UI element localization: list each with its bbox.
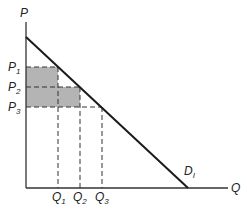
quantity-label-q3: Q3 (95, 190, 109, 206)
demand-curve (26, 37, 188, 188)
x-axis-label: Q (231, 181, 240, 195)
shaded-area-p1-p2 (26, 67, 58, 87)
demand-curve-label: DI (184, 164, 196, 180)
quantity-label-q2: Q2 (73, 190, 87, 206)
y-axis-label: P (20, 6, 28, 20)
quantity-label-q1: Q1 (52, 190, 66, 206)
price-label-p1: P1 (8, 60, 20, 76)
shaded-area-p2-p3 (26, 87, 80, 107)
price-label-p2: P2 (8, 80, 21, 96)
price-label-p3: P3 (8, 100, 21, 116)
demand-diagram: P Q DI P1 P2 P3 Q1 Q2 Q3 (0, 0, 247, 209)
